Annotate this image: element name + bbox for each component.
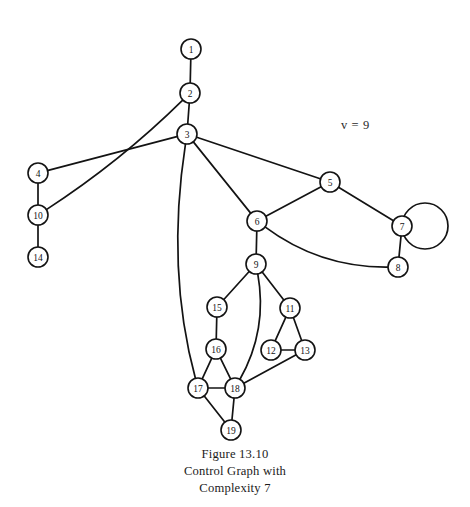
graph-node-8[interactable]: 8 bbox=[388, 257, 408, 277]
graph-node-9[interactable]: 9 bbox=[246, 254, 266, 274]
edges-layer bbox=[38, 58, 401, 422]
edge-16-18 bbox=[220, 358, 231, 380]
caption-line-subtitle-1: Control Graph with bbox=[0, 463, 470, 480]
node-circle-7[interactable] bbox=[392, 216, 412, 236]
node-circle-10[interactable] bbox=[28, 205, 48, 225]
graph-node-4[interactable]: 4 bbox=[28, 163, 48, 183]
graph-node-16[interactable]: 16 bbox=[206, 339, 226, 359]
graph-node-1[interactable]: 1 bbox=[181, 39, 201, 59]
node-circle-12[interactable] bbox=[261, 340, 281, 360]
graph-node-6[interactable]: 6 bbox=[247, 211, 267, 231]
node-circle-19[interactable] bbox=[221, 420, 241, 440]
edge-6-9 bbox=[256, 230, 257, 254]
node-circle-11[interactable] bbox=[280, 298, 300, 318]
graph-node-13[interactable]: 13 bbox=[295, 340, 315, 360]
edge-17-19 bbox=[204, 395, 225, 422]
edge-3-4 bbox=[47, 136, 178, 170]
graph-node-2[interactable]: 2 bbox=[180, 83, 200, 103]
edge-9-11 bbox=[262, 272, 284, 301]
edge-5-6 bbox=[265, 186, 321, 216]
edge-11-13 bbox=[293, 317, 302, 341]
graph-node-5[interactable]: 5 bbox=[320, 172, 340, 192]
node-circle-8[interactable] bbox=[388, 257, 408, 277]
figure-caption: Figure 13.10 Control Graph with Complexi… bbox=[0, 446, 470, 497]
edge-16-17 bbox=[202, 358, 212, 380]
node-circle-15[interactable] bbox=[207, 297, 227, 317]
graph-node-14[interactable]: 14 bbox=[28, 247, 48, 267]
graph-node-7[interactable]: 7 bbox=[392, 216, 412, 236]
graph-node-18[interactable]: 18 bbox=[225, 378, 245, 398]
node-circle-1[interactable] bbox=[181, 39, 201, 59]
node-circle-17[interactable] bbox=[188, 378, 208, 398]
edge-9-18 bbox=[240, 273, 261, 379]
node-circle-3[interactable] bbox=[177, 124, 197, 144]
edge-3-17 bbox=[178, 143, 196, 378]
caption-line-title: Figure 13.10 bbox=[0, 446, 470, 463]
edge-6-8 bbox=[265, 227, 389, 267]
graph-node-10[interactable]: 10 bbox=[28, 205, 48, 225]
node-circle-13[interactable] bbox=[295, 340, 315, 360]
edge-15-16 bbox=[216, 316, 217, 339]
node-circle-16[interactable] bbox=[206, 339, 226, 359]
node-circle-18[interactable] bbox=[225, 378, 245, 398]
node-circle-2[interactable] bbox=[180, 83, 200, 103]
caption-line-subtitle-2: Complexity 7 bbox=[0, 480, 470, 497]
node-circle-6[interactable] bbox=[247, 211, 267, 231]
nodes-layer: 12345678910111213141516171819 bbox=[28, 39, 412, 440]
node-circle-14[interactable] bbox=[28, 247, 48, 267]
edge-9-15 bbox=[223, 271, 249, 300]
edge-11-12 bbox=[275, 317, 286, 342]
graph-node-17[interactable]: 17 bbox=[188, 378, 208, 398]
edge-18-19 bbox=[232, 397, 234, 420]
control-graph-diagram: 12345678910111213141516171819 v = 9 bbox=[0, 0, 470, 507]
edge-3-5 bbox=[196, 137, 321, 179]
figure-container: 12345678910111213141516171819 v = 9 Figu… bbox=[0, 0, 470, 507]
edge-5-7 bbox=[338, 187, 394, 221]
vertex-count-annotation: v = 9 bbox=[341, 118, 370, 132]
edge-2-3 bbox=[188, 102, 190, 124]
graph-node-15[interactable]: 15 bbox=[207, 297, 227, 317]
edge-7-8 bbox=[399, 235, 401, 257]
graph-node-12[interactable]: 12 bbox=[261, 340, 281, 360]
graph-node-3[interactable]: 3 bbox=[177, 124, 197, 144]
node-circle-9[interactable] bbox=[246, 254, 266, 274]
edge-1-2 bbox=[190, 58, 191, 83]
node-circle-5[interactable] bbox=[320, 172, 340, 192]
graph-node-19[interactable]: 19 bbox=[221, 420, 241, 440]
node-circle-4[interactable] bbox=[28, 163, 48, 183]
graph-node-11[interactable]: 11 bbox=[280, 298, 300, 318]
edge-2-10 bbox=[46, 100, 183, 210]
